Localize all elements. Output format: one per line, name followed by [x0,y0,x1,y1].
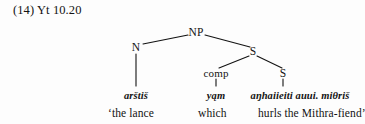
edge-np-to-s1 [205,35,250,47]
tree-node-comp: comp [203,68,228,79]
terminal-word-yam: yąm [207,90,225,101]
terminal-word-arstis: arštiš [124,90,148,101]
gloss-segment-the-lance: ‘the lance [108,107,154,119]
terminal-phrase-anhaiieiti: aŋhaiieiti auui. miθriš [251,90,350,101]
tree-node-np: NP [188,27,203,38]
edge-np-to-n [143,35,188,44]
edge-s1-to-s2 [257,56,282,68]
gloss-segment-which: which [198,107,227,119]
tree-node-s-upper: S [250,46,257,57]
syntax-tree-figure: (14) Yt 10.20 NP N S comp S arštiš yąm a… [0,0,365,124]
tree-node-n: N [132,42,141,53]
gloss-segment-hurls-the-mithra-fiend: hurls the Mithra-fiend’ [258,107,365,119]
tree-edges [0,0,365,124]
tree-node-s-lower: S [280,68,287,79]
